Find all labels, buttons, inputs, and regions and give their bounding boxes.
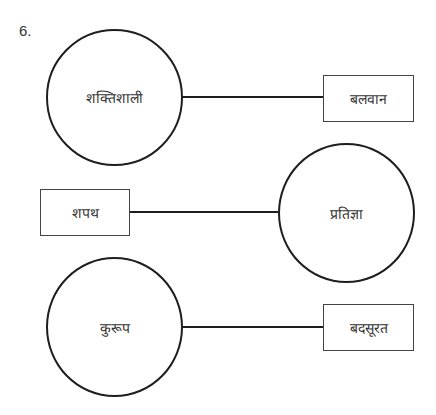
box-node-2: शपथ: [40, 189, 130, 236]
circle-node-2: प्रतिज्ञा: [278, 143, 415, 283]
circle-word-3: कुरूप: [100, 318, 130, 337]
box-node-1: बलवान: [323, 75, 414, 122]
circle-node-1: शक्तिशाली: [46, 29, 183, 166]
box-word-2: शपथ: [72, 203, 99, 222]
circle-word-1: शक्तिशाली: [86, 88, 143, 107]
box-word-1: बलवान: [350, 89, 387, 108]
circle-word-2: प्रतिज्ञा: [330, 204, 363, 223]
circle-node-3: कुरूप: [46, 257, 183, 397]
box-node-3: बदसूरत: [323, 304, 414, 351]
box-word-3: बदसूरत: [350, 318, 388, 337]
